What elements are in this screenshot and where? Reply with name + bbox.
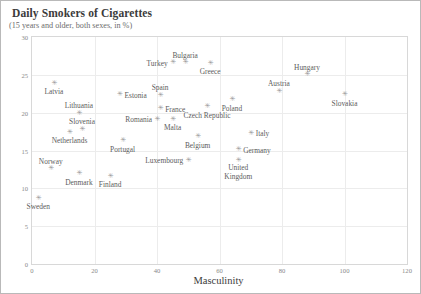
asterisk-marker-icon: ✳ — [48, 166, 53, 171]
data-point-label: Austria — [268, 79, 290, 88]
data-point-label: Latvia — [44, 87, 63, 96]
data-point-label: Germany — [243, 146, 271, 155]
x-axis-tick-label: 100 — [340, 267, 350, 274]
asterisk-marker-icon: ✳ — [117, 92, 122, 97]
asterisk-marker-icon: ✳ — [205, 104, 210, 109]
asterisk-marker-icon: ✳ — [248, 131, 253, 136]
asterisk-marker-icon: ✳ — [170, 60, 175, 65]
asterisk-marker-icon: ✳ — [186, 158, 191, 163]
asterisk-marker-icon: ✳ — [76, 111, 81, 116]
data-point-label: Turkey — [147, 59, 168, 68]
chart-title: Daily Smokers of Cigarettes — [12, 7, 152, 19]
asterisk-marker-icon: ✳ — [208, 61, 213, 66]
data-point-label: Norway — [39, 157, 63, 166]
asterisk-marker-icon: ✳ — [120, 138, 125, 143]
asterisk-marker-icon: ✳ — [195, 134, 200, 139]
asterisk-marker-icon: ✳ — [342, 92, 347, 97]
data-point-label: Bulgaria — [172, 51, 197, 60]
data-point-label: Italy — [256, 129, 270, 138]
y-axis-tick-label: 15 — [21, 147, 28, 154]
data-point-label: Sweden — [27, 202, 50, 211]
asterisk-marker-icon: ✳ — [51, 81, 56, 86]
asterisk-marker-icon: ✳ — [170, 117, 175, 122]
plot-area: 020406080100120051015202530✳Turkey✳Bulga… — [31, 36, 408, 265]
data-point-label: Slovakia — [332, 99, 358, 108]
data-point-label: Estonia — [125, 91, 147, 100]
y-axis-tick-label: 30 — [21, 34, 28, 41]
y-gridline — [32, 188, 407, 189]
y-axis-tick-label: 5 — [25, 223, 28, 230]
y-axis-tick-label: 0 — [25, 261, 28, 268]
asterisk-marker-icon: ✳ — [158, 93, 163, 98]
data-point-label: Hungary — [294, 63, 320, 72]
asterisk-marker-icon: ✳ — [183, 60, 188, 65]
x-axis-tick-label: 80 — [279, 267, 286, 274]
y-axis-tick-label: 20 — [21, 109, 28, 116]
x-axis-tick-label: 60 — [216, 267, 223, 274]
asterisk-marker-icon: ✳ — [67, 130, 72, 135]
asterisk-marker-icon: ✳ — [276, 89, 281, 94]
asterisk-marker-icon: ✳ — [236, 158, 241, 163]
chart-figure: Daily Smokers of Cigarettes (15 years an… — [0, 0, 421, 294]
asterisk-marker-icon: ✳ — [158, 106, 163, 111]
x-axis-tick-label: 20 — [91, 267, 98, 274]
data-point-label: Denmark — [65, 178, 93, 187]
x-axis-tick-label: 40 — [154, 267, 161, 274]
data-point-label: UnitedKingdom — [224, 164, 252, 181]
y-axis-tick-label: 25 — [21, 71, 28, 78]
chart-subtitle: (15 years and older, both sexes, in %) — [9, 21, 132, 30]
y-gridline — [32, 151, 407, 152]
data-point-label: Finland — [99, 180, 122, 189]
data-point-label: Slovenia — [69, 117, 95, 126]
data-point-label: Netherlands — [52, 136, 88, 145]
y-axis-tick-label: 10 — [21, 185, 28, 192]
data-point-label: Belgium — [185, 141, 210, 150]
data-point-label: Spain — [152, 83, 169, 92]
asterisk-marker-icon: ✳ — [236, 147, 241, 152]
asterisk-marker-icon: ✳ — [36, 196, 41, 201]
asterisk-marker-icon: ✳ — [108, 174, 113, 179]
x-axis-tick-label: 120 — [402, 267, 412, 274]
asterisk-marker-icon: ✳ — [305, 72, 310, 77]
data-point-label: Greece — [200, 67, 221, 76]
asterisk-marker-icon: ✳ — [230, 97, 235, 102]
data-point-label: Luxembourg — [145, 156, 183, 165]
asterisk-marker-icon: ✳ — [155, 117, 160, 122]
data-point-label: Czech Republic — [184, 111, 231, 120]
x-axis-label: Masculinity — [31, 275, 406, 286]
y-gridline — [32, 226, 407, 227]
data-point-label: France — [165, 105, 185, 114]
data-point-label: Romania — [125, 115, 152, 124]
data-point-label: Malta — [164, 123, 181, 132]
asterisk-marker-icon: ✳ — [76, 171, 81, 176]
x-axis-tick-label: 0 — [30, 267, 33, 274]
data-point-label: Lithuania — [65, 101, 93, 110]
data-point-label: Portugal — [110, 145, 135, 154]
asterisk-marker-icon: ✳ — [80, 127, 85, 132]
